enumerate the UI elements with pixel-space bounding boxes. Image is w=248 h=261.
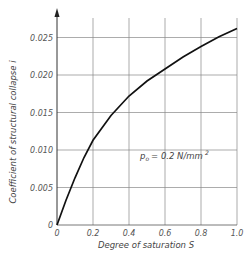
axes (55, 8, 238, 225)
y-tick-label: 0.025 (30, 34, 53, 43)
x-tick-label: 0.4 (123, 229, 136, 238)
x-tick-label: 0 (54, 229, 59, 238)
y-tick-label: 0.020 (30, 71, 53, 80)
y-tick-labels: 00.0050.0100.0150.0200.025 (30, 34, 53, 231)
grid-lines (57, 18, 237, 225)
x-axis-label: Degree of saturation S (98, 240, 195, 250)
x-tick-labels: 00.20.40.60.81.0 (54, 229, 243, 238)
y-tick-label: 0.015 (30, 109, 53, 118)
x-tick-label: 0.2 (87, 229, 100, 238)
y-tick-label: 0.010 (30, 146, 53, 155)
pressure-annotation: po= 0.2 N/mm2 (139, 149, 209, 162)
x-tick-label: 0.6 (159, 229, 172, 238)
y-axis-label: Coefficient of structural collapse i (8, 60, 18, 204)
saturation-collapse-chart: 00.0050.0100.0150.0200.025 00.20.40.60.8… (0, 0, 248, 261)
x-tick-label: 1.0 (231, 229, 244, 238)
x-tick-label: 0.8 (195, 229, 208, 238)
y-axis-arrow-icon (55, 8, 60, 17)
y-tick-label: 0 (48, 221, 53, 230)
y-tick-label: 0.005 (30, 184, 53, 193)
data-curve (57, 29, 237, 226)
